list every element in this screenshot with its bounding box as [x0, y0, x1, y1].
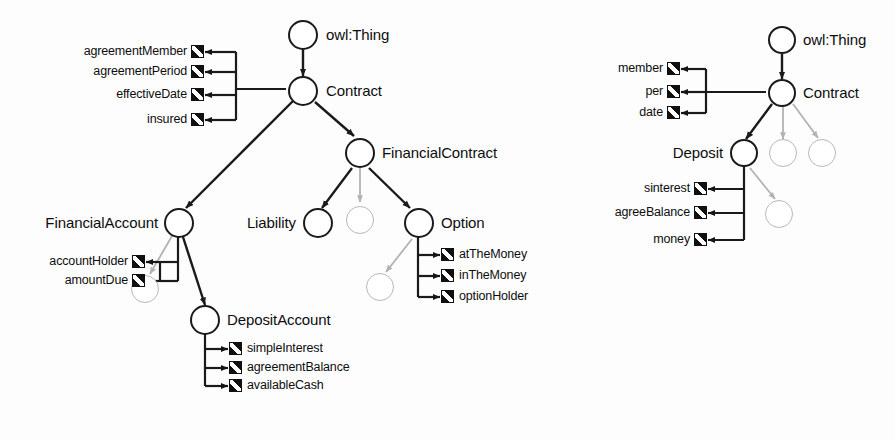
property-slot-icon: [191, 113, 204, 126]
property-label: optionHolder: [459, 290, 528, 303]
property-row[interactable]: simpleInterest: [229, 342, 323, 355]
property-slot-icon: [191, 65, 204, 78]
property-row[interactable]: availableCash: [229, 379, 324, 392]
property-label: agreeBalance: [615, 206, 690, 219]
class-node-ghost-contract-child-2[interactable]: [808, 139, 836, 167]
property-row[interactable]: member: [585, 62, 680, 75]
property-row[interactable]: agreementMember: [44, 45, 204, 58]
class-node-ghost-deposit-child[interactable]: [765, 200, 793, 228]
left-financialaccount-property-wires: [146, 234, 178, 281]
property-slot-icon: [132, 274, 145, 287]
property-slot-icon: [694, 206, 707, 219]
left-depositaccount-property-wires: [205, 333, 228, 386]
right-hierarchy-edges: [746, 54, 818, 199]
property-label: agreementMember: [84, 45, 187, 58]
property-slot-icon: [667, 62, 680, 75]
property-label: agreementBalance: [247, 361, 350, 374]
class-label-option: Option: [441, 215, 485, 230]
property-slot-icon: [441, 269, 454, 282]
property-label: inTheMoney: [459, 269, 526, 282]
property-label: date: [639, 106, 663, 119]
property-row[interactable]: agreeBalance: [575, 206, 707, 219]
class-node-ghost-option-child[interactable]: [366, 273, 394, 301]
property-label: accountHolder: [49, 255, 128, 268]
class-node-deposit-account[interactable]: [190, 305, 220, 335]
property-slot-icon: [229, 342, 242, 355]
property-row[interactable]: atTheMoney: [441, 248, 527, 261]
right-deposit-property-wires: [708, 165, 744, 240]
class-label-contract-reduced: Contract: [803, 85, 859, 100]
property-slot-icon: [694, 182, 707, 195]
property-row[interactable]: sinterest: [575, 182, 707, 195]
property-label: amountDue: [65, 274, 128, 287]
property-row[interactable]: accountHolder: [14, 255, 145, 268]
property-slot-icon: [229, 361, 242, 374]
property-row[interactable]: agreementPeriod: [44, 65, 204, 78]
property-label: sinterest: [644, 182, 690, 195]
property-row[interactable]: money: [575, 233, 707, 246]
class-label-deposit: Deposit: [651, 145, 723, 160]
left-contract-property-wires: [205, 52, 286, 120]
class-label-deposit-account: DepositAccount: [227, 312, 331, 327]
class-node-contract[interactable]: [288, 76, 318, 106]
property-slot-icon: [191, 45, 204, 58]
property-slot-icon: [694, 233, 707, 246]
property-label: per: [645, 85, 663, 98]
class-label-owl-thing: owl:Thing: [326, 27, 389, 42]
diagram-canvas: owl:Thing Contract FinancialContract Fin…: [0, 0, 895, 441]
property-row[interactable]: effectiveDate: [44, 88, 204, 101]
class-node-ghost-financial-contract-child[interactable]: [346, 206, 374, 234]
property-row[interactable]: inTheMoney: [441, 269, 526, 282]
class-label-contract: Contract: [326, 83, 382, 98]
class-label-financial-contract: FinancialContract: [382, 145, 497, 160]
class-node-financial-account[interactable]: [164, 208, 194, 238]
class-label-financial-account: FinancialAccount: [16, 215, 158, 230]
property-label: simpleInterest: [247, 342, 323, 355]
property-row[interactable]: date: [585, 106, 680, 119]
property-label: effectiveDate: [116, 88, 187, 101]
class-label-owl-thing-reduced: owl:Thing: [803, 32, 866, 47]
property-label: atTheMoney: [459, 248, 527, 261]
property-slot-icon: [441, 248, 454, 261]
property-row[interactable]: agreementBalance: [229, 361, 350, 374]
class-label-liability: Liability: [232, 215, 296, 230]
class-node-owl-thing-reduced[interactable]: [768, 26, 796, 54]
property-slot-icon: [441, 290, 454, 303]
right-contract-property-wires: [681, 69, 766, 113]
property-label: member: [618, 62, 663, 75]
property-label: agreementPeriod: [93, 65, 187, 78]
left-option-property-wires: [418, 235, 440, 297]
property-row[interactable]: optionHolder: [441, 290, 528, 303]
class-node-deposit[interactable]: [730, 139, 758, 167]
property-row[interactable]: per: [585, 85, 680, 98]
class-node-financial-contract[interactable]: [345, 138, 375, 168]
property-label: insured: [147, 113, 187, 126]
class-node-option[interactable]: [404, 208, 434, 238]
property-row[interactable]: insured: [44, 113, 204, 126]
property-row[interactable]: amountDue: [14, 274, 145, 287]
property-slot-icon: [667, 106, 680, 119]
property-slot-icon: [191, 88, 204, 101]
class-node-owl-thing[interactable]: [288, 20, 318, 50]
property-slot-icon: [229, 379, 242, 392]
property-slot-icon: [132, 255, 145, 268]
class-node-contract-reduced[interactable]: [768, 79, 796, 107]
property-label: availableCash: [247, 379, 324, 392]
property-slot-icon: [667, 85, 680, 98]
class-node-liability[interactable]: [303, 208, 333, 238]
property-label: money: [653, 233, 690, 246]
class-node-ghost-contract-child-1[interactable]: [769, 139, 797, 167]
